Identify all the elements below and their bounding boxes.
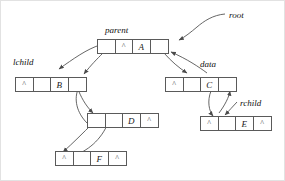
tree-node-b: ^B [15, 77, 87, 92]
tree-node-a: ^A [97, 39, 169, 54]
pointer-wire-e-to-c [219, 91, 230, 113]
pointer-wire-a-lchild-to-b [84, 53, 103, 74]
node-d-field-lchild [106, 114, 124, 127]
annotation-label-lchild: lchild [13, 57, 34, 67]
node-d-field-parent [88, 114, 106, 127]
node-a-field-rchild [151, 40, 169, 53]
node-a-field-parent [98, 40, 116, 53]
node-d-field-rchild: ^ [141, 114, 159, 127]
pointer-wire-rchild-to-e [225, 102, 237, 115]
node-f-field-lchild [74, 152, 92, 165]
node-b-field-parent: ^ [16, 78, 34, 91]
node-b-field-rchild [69, 78, 87, 91]
node-b-field-lchild [34, 78, 52, 91]
node-c-field-lchild [184, 78, 202, 91]
annotation-label-rchild: rchild [240, 98, 261, 108]
annotation-label-parent: parent [105, 25, 128, 35]
node-f-field-parent: ^ [56, 152, 74, 165]
node-c-field-rchild [219, 78, 237, 91]
tree-node-e: ^E^ [200, 116, 272, 131]
tree-node-d: D^ [87, 113, 159, 128]
node-a-field-data: A [133, 40, 151, 53]
pointer-wire-a-rchild-to-c [164, 53, 187, 73]
node-e-field-rchild: ^ [254, 117, 272, 130]
node-f-field-data: F [91, 152, 109, 165]
pointer-wire-a-parent-to-b [59, 45, 100, 69]
node-c-field-parent: ^ [166, 78, 184, 91]
annotation-label-data: data [200, 59, 216, 69]
pointer-wire-d-parent-to-b [76, 87, 87, 123]
tree-node-c: ^C [165, 77, 237, 92]
node-b-field-data: B [51, 78, 69, 91]
diagram-canvas: ^A^B^CD^^E^^F^ rootparentlchilddatarchil… [0, 0, 285, 181]
node-c-field-data: C [201, 78, 219, 91]
node-a-field-lchild: ^ [116, 40, 134, 53]
node-e-field-parent: ^ [201, 117, 219, 130]
node-f-field-rchild: ^ [109, 152, 127, 165]
node-e-field-lchild [219, 117, 237, 130]
tree-node-f: ^F^ [55, 151, 127, 166]
node-d-field-data: D [123, 114, 141, 127]
pointer-wire-root-to-a [179, 14, 225, 40]
node-e-field-data: E [236, 117, 254, 130]
annotation-label-root: root [229, 10, 244, 20]
pointer-wire-c-lchild-to-e [209, 91, 213, 116]
